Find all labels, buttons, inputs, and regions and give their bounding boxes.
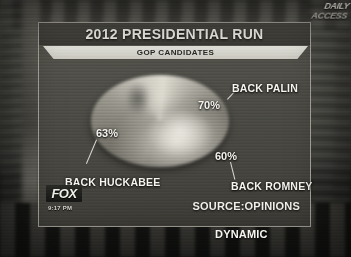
category-label-romney: BACK ROMNEY — [231, 180, 313, 192]
pie-slice-gap — [125, 81, 151, 115]
broadcast-clock: 9:17 PM — [48, 205, 72, 211]
source-attribution-line1: SOURCE:OPINIONS — [192, 200, 300, 212]
channel-watermark: DAILY ACCESS — [274, 1, 351, 23]
source-attribution-line2: DYNAMIC — [215, 228, 268, 240]
tv-broadcast-screenshot: 2012 PRESIDENTIAL RUN GOP CANDIDATES 70%… — [0, 0, 351, 257]
background-right-structure — [309, 0, 351, 226]
graphic-title-bar: 2012 PRESIDENTIAL RUN — [39, 23, 310, 45]
value-label-huckabee: 63% — [96, 127, 118, 139]
page-title: 2012 PRESIDENTIAL RUN — [86, 26, 264, 42]
graphic-subtitle-banner: GOP CANDIDATES — [43, 46, 308, 59]
news-graphic-panel: 2012 PRESIDENTIAL RUN GOP CANDIDATES 70%… — [38, 22, 311, 227]
fox-logo-text: FOX — [51, 186, 76, 201]
category-label-palin: BACK PALIN — [232, 82, 298, 94]
pie-chart — [39, 61, 312, 183]
watermark-line-2: ACCESS — [274, 11, 348, 21]
fox-logo: FOX — [46, 185, 82, 202]
graphic-subtitle: GOP CANDIDATES — [137, 48, 214, 57]
pie-highlight-slice — [147, 111, 213, 157]
watermark-line-1: DAILY — [276, 1, 350, 11]
value-label-palin: 70% — [198, 99, 220, 111]
value-label-romney: 60% — [215, 150, 237, 162]
